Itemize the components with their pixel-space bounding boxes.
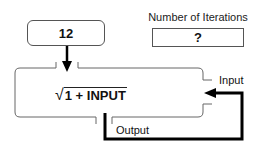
output-port-label: Output: [116, 124, 149, 136]
iterations-value: ?: [194, 30, 202, 45]
formula: √ 1 + INPUT: [55, 83, 127, 103]
input-port-label: Input: [219, 74, 243, 86]
square-root-icon: √: [55, 87, 64, 103]
down-arrow-head-icon: [62, 61, 72, 72]
iterations-box: ?: [152, 28, 244, 47]
input-value-box: 12: [27, 20, 105, 46]
iterations-label: Number of Iterations: [146, 11, 250, 23]
input-value: 12: [59, 26, 73, 41]
left-arrow-head-icon: [204, 88, 216, 98]
formula-expression: 1 + INPUT: [64, 87, 127, 103]
